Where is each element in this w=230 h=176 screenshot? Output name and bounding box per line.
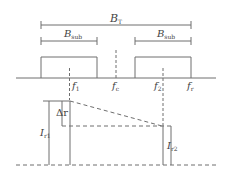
f1-label: f1 xyxy=(72,81,80,92)
f2-label: f2 xyxy=(154,81,162,92)
bsub-right-label: Bsub xyxy=(157,29,175,40)
delta-r-label: Δr xyxy=(56,108,68,118)
ir2-label: Ir2 xyxy=(167,141,178,152)
bsub-left-label: Bsub xyxy=(64,29,82,40)
slope-dashed-line xyxy=(70,101,162,126)
fr-label: fr xyxy=(187,81,194,92)
bt-label: BT xyxy=(110,13,122,25)
ir1-label: Ir1 xyxy=(40,128,51,139)
fc-label: fc xyxy=(112,81,119,92)
